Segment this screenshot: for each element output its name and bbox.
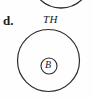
figure-item-letter: d. — [3, 14, 13, 27]
outer-region-label-th: TH — [43, 14, 58, 25]
figure-panel-d: d. TH B — [0, 0, 93, 99]
inner-region-label-b: B — [45, 60, 51, 70]
